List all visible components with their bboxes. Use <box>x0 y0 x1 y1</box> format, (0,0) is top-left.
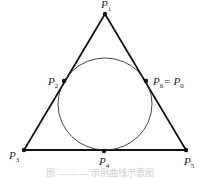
point-p6 <box>144 79 148 83</box>
point-p5 <box>184 148 188 152</box>
label-p3: P3 <box>8 149 20 164</box>
point-p3 <box>22 148 26 152</box>
label-p6-eq-p0: P6= P0 <box>152 75 184 90</box>
triangle-incircle-diagram: P1 P2 P3 P4 P5 P6= P0 <box>0 0 200 179</box>
figure-caption: 图 — — — 示例曲线示意图 <box>0 166 200 179</box>
point-p1 <box>103 12 107 16</box>
label-p2: P2 <box>47 75 59 90</box>
point-p4 <box>102 149 106 153</box>
point-p2 <box>62 79 66 83</box>
incircle <box>58 58 152 150</box>
label-p1: P1 <box>100 0 112 13</box>
